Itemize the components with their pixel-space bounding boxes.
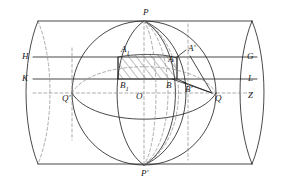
- label-K: K: [22, 74, 28, 83]
- label-B1: B1: [120, 81, 129, 92]
- cylinder-left-cap-front: [26, 21, 38, 164]
- segment-A-Aprime: [177, 50, 186, 57]
- label-O: O: [136, 92, 143, 101]
- label-L: L: [248, 74, 253, 83]
- label-A-prime: A′: [188, 44, 195, 53]
- label-A1: A1: [121, 45, 130, 56]
- label-A: A: [168, 55, 174, 64]
- label-P-prime: P′: [141, 169, 148, 178]
- label-P: P: [143, 8, 149, 17]
- label-G: G: [247, 52, 254, 61]
- label-H: H: [22, 52, 29, 61]
- figure-canvas: P P′ H K G L Z Q Q′ O A1 A A′ B1 B B′: [0, 0, 281, 184]
- label-Z: Z: [248, 91, 253, 100]
- cylinder-left-cap-back: [38, 21, 50, 164]
- label-Q-prime: Q′: [62, 94, 70, 103]
- label-B: B: [166, 81, 172, 90]
- label-Q: Q: [215, 94, 222, 103]
- cylinder-right-cap-front: [252, 21, 264, 164]
- label-B-prime: B′: [185, 85, 192, 94]
